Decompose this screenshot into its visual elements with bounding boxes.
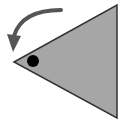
rotate-left-graphic	[0, 0, 124, 124]
curved-arrow-head	[7, 34, 21, 52]
marker-dot	[27, 55, 39, 67]
curved-arrow-shaft	[14, 10, 61, 36]
rotate-left-icon	[0, 0, 124, 124]
